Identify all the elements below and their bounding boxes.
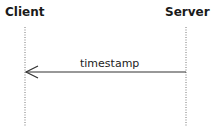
participant-server: Server (165, 5, 210, 19)
message-label: timestamp (80, 57, 139, 70)
participant-client: Client (5, 5, 44, 19)
